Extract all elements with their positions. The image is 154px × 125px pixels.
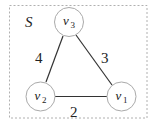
node-label-sub: 3 [71,20,76,30]
edge-weight-v3-v2: 4 [35,50,43,66]
node-circle [55,8,84,37]
node-label-sub: 1 [123,95,128,105]
edge-weight-v2-v1: 2 [70,104,78,120]
graph-diagram: S 4 3 2 v 3 v 2 v 1 [0,0,154,125]
node-circle [107,82,136,111]
node-label-base: v [35,88,41,103]
node-label-base: v [116,88,122,103]
edge-v3-v2 [46,36,63,82]
node-circle [26,82,55,111]
node-v3: v 3 [55,8,84,37]
node-v1: v 1 [107,82,136,111]
node-label-sub: 2 [42,95,47,105]
edge-weight-v3-v1: 3 [101,50,109,66]
node-label-base: v [63,13,69,28]
node-v2: v 2 [26,82,55,111]
set-label: S [25,14,33,30]
